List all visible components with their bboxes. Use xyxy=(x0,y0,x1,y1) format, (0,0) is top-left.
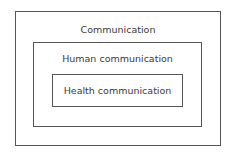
communication-label: Communication xyxy=(16,24,220,35)
inner-box-health-communication: Health communication xyxy=(52,74,183,107)
human-communication-label: Human communication xyxy=(34,53,201,64)
health-communication-label: Health communication xyxy=(53,85,182,96)
